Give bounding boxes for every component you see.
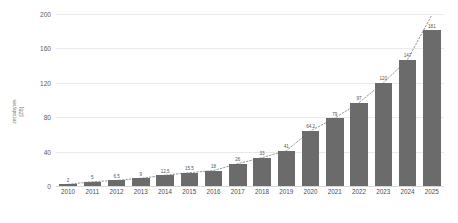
bar-value-label: 120: [380, 76, 388, 81]
x-axis-tick-2024: 2024: [396, 188, 420, 195]
bar-value-label: 6.5: [113, 174, 119, 179]
bar-value-label: 15.5: [185, 166, 194, 171]
bar-value-label: 41: [284, 144, 289, 149]
bar-slot: 147: [396, 14, 420, 186]
bar-value-label: 181: [428, 24, 436, 29]
plot-area: 20016012080400 256.5912.515.51826334164.…: [56, 14, 444, 186]
x-axis-tick-2017: 2017: [226, 188, 250, 195]
bar-slot: 79: [323, 14, 347, 186]
bar-slot: 181: [420, 14, 444, 186]
bar-series: 256.5912.515.51826334164.27997120147181: [56, 14, 444, 186]
bar[interactable]: 9: [132, 178, 149, 186]
bar[interactable]: 64.2: [302, 131, 319, 186]
x-axis-tick-2025: 2025: [420, 188, 444, 195]
bar-value-label: 2: [67, 178, 70, 183]
y-axis-title-line2: [ZB]: [17, 99, 24, 124]
bar-slot: 18: [202, 14, 226, 186]
bar-value-label: 147: [404, 53, 412, 58]
x-axis-tick-2010: 2010: [56, 188, 80, 195]
bar-slot: 5: [80, 14, 104, 186]
x-axis-tick-2013: 2013: [129, 188, 153, 195]
bar-value-label: 97: [357, 96, 362, 101]
bar-slot: 6.5: [105, 14, 129, 186]
y-axis-tick-80: 80: [44, 114, 51, 121]
y-axis-tick-0: 0: [47, 183, 51, 190]
x-axis-tick-2020: 2020: [299, 188, 323, 195]
bar[interactable]: 5: [84, 182, 101, 186]
bar-slot: 120: [371, 14, 395, 186]
chart-container: zettabytes [ZB] 20016012080400 256.5912.…: [0, 0, 458, 223]
bar[interactable]: 15.5: [181, 173, 198, 186]
bar[interactable]: 120: [375, 83, 392, 186]
bar[interactable]: 2: [59, 184, 76, 186]
y-axis-title: zettabytes [ZB]: [6, 0, 28, 223]
x-axis-tick-2021: 2021: [323, 188, 347, 195]
x-axis-tick-2016: 2016: [202, 188, 226, 195]
bar[interactable]: 6.5: [108, 180, 125, 186]
x-axis-tick-2012: 2012: [105, 188, 129, 195]
bar-value-label: 9: [140, 172, 143, 177]
bar-slot: 97: [347, 14, 371, 186]
bar-value-label: 5: [91, 175, 94, 180]
x-axis-labels: 2010201120122013201420152016201720182019…: [56, 188, 444, 195]
bar[interactable]: 147: [399, 60, 416, 186]
y-axis-tick-120: 120: [40, 79, 51, 86]
bar[interactable]: 26: [229, 164, 246, 186]
x-axis-tick-2014: 2014: [153, 188, 177, 195]
bar-value-label: 12.5: [161, 169, 170, 174]
bar-slot: 9: [129, 14, 153, 186]
bar[interactable]: 12.5: [156, 175, 173, 186]
bar-slot: 2: [56, 14, 80, 186]
x-axis-tick-2015: 2015: [177, 188, 201, 195]
bar[interactable]: 79: [326, 118, 343, 186]
bar-value-label: 18: [211, 164, 216, 169]
gridline-0: 0: [56, 186, 444, 187]
bar-value-label: 79: [332, 112, 337, 117]
x-axis-tick-2022: 2022: [347, 188, 371, 195]
bar-slot: 15.5: [177, 14, 201, 186]
bar-slot: 33: [250, 14, 274, 186]
bar-slot: 12.5: [153, 14, 177, 186]
bar[interactable]: 33: [253, 158, 270, 186]
x-axis-tick-2023: 2023: [371, 188, 395, 195]
y-axis-tick-40: 40: [44, 148, 51, 155]
bar[interactable]: 18: [205, 171, 222, 186]
y-axis-title-line1: zettabytes: [11, 99, 17, 124]
bar[interactable]: 97: [350, 103, 367, 186]
x-axis-tick-2011: 2011: [80, 188, 104, 195]
bar-value-label: 26: [235, 157, 240, 162]
y-axis-tick-200: 200: [40, 11, 51, 18]
bar[interactable]: 181: [423, 30, 440, 186]
bar-slot: 26: [226, 14, 250, 186]
bar[interactable]: 41: [278, 151, 295, 186]
bar-value-label: 64.2: [306, 124, 315, 129]
bar-slot: 64.2: [299, 14, 323, 186]
bar-value-label: 33: [260, 151, 265, 156]
x-axis-tick-2019: 2019: [274, 188, 298, 195]
x-axis-tick-2018: 2018: [250, 188, 274, 195]
bar-slot: 41: [274, 14, 298, 186]
y-axis-tick-160: 160: [40, 45, 51, 52]
